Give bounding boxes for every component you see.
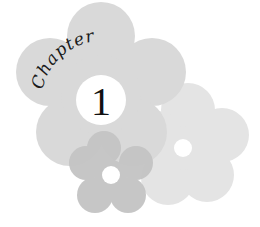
chapter-graphic: Chapter 1 bbox=[0, 0, 260, 227]
chapter-number: 1 bbox=[91, 79, 111, 124]
